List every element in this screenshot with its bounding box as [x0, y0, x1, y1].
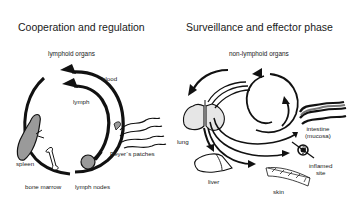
left-panel-title: Cooperation and regulation [18, 21, 145, 33]
label-blood: blood [102, 75, 117, 82]
label-intestine: intestine (mucosa) [305, 125, 331, 139]
left-panel-subtitle: lymphoid organs [48, 50, 95, 57]
lung-shape [183, 105, 204, 130]
label-lymph: lymph [73, 98, 90, 105]
intestine-villi-left [120, 118, 166, 148]
label-inflamed-line2: site [316, 169, 326, 176]
lymph-node-shape [81, 155, 95, 169]
label-peyers-patches: Peyer´s patches [110, 150, 155, 157]
label-lymph-nodes: lymph nodes [75, 183, 110, 190]
lymphoid-circulation-diagram [17, 64, 166, 174]
arc-to-lung [192, 70, 228, 92]
right-panel-subtitle: non-lymphoid organs [229, 50, 289, 57]
spleen-shape [17, 115, 40, 161]
label-intestine-line2: (mucosa) [305, 132, 331, 139]
label-skin: skin [273, 188, 284, 195]
label-inflamed-line1: inflamed [309, 162, 332, 169]
inflamed-site-icon [292, 142, 314, 158]
label-liver: liver [208, 178, 219, 185]
label-lung: lung [177, 138, 189, 145]
right-panel-title: Surveillance and effector phase [186, 21, 333, 33]
label-bone-marrow: bone marrow [25, 183, 61, 190]
label-inflamed-site: inflamed site [309, 162, 332, 176]
label-intestine-line1: intestine [306, 125, 329, 132]
label-spleen: spleen [16, 160, 34, 167]
